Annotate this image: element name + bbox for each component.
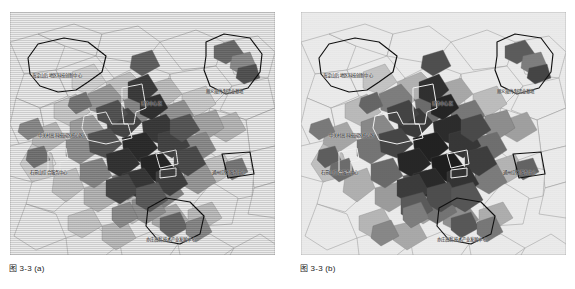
figure-page: 海淀山后地区科技创新中心 顺义现代制造业基地 奥体中心区 中关村高科技园区核心区…: [0, 0, 575, 289]
map-label-shijingshan-service: 石景山综合服务中心: [321, 171, 358, 175]
map-label-tongzhou-service: 通州综合服务中心: [503, 171, 536, 175]
figure-panel-b: 海淀山后地区科技创新中心 顺义现代制造业基地 奥体中心区 中关村高科技园区核心区…: [287, 0, 575, 289]
map-label-yizhuang-hitech: 亦庄高新技术产业发展中心: [437, 238, 487, 242]
map-label-olympic-center: 奥体中心区: [141, 102, 162, 106]
map-a[interactable]: 海淀山后地区科技创新中心 顺义现代制造业基地 奥体中心区 中关村高科技园区核心区…: [10, 12, 275, 255]
map-label-haidian-shanhou: 海淀山后地区科技创新中心: [32, 74, 82, 78]
map-label-tongzhou-service: 通州综合服务中心: [212, 171, 245, 175]
map-label-shijingshan-service: 石景山综合服务中心: [30, 171, 67, 175]
map-label-shunyi-manufacturing: 顺义现代制造业基地: [497, 90, 534, 94]
map-label-shunyi-manufacturing: 顺义现代制造业基地: [206, 90, 243, 94]
map-b[interactable]: 海淀山后地区科技创新中心 顺义现代制造业基地 奥体中心区 中关村高科技园区核心区…: [301, 12, 566, 255]
map-label-yizhuang-hitech: 亦庄高新技术产业发展中心: [146, 238, 196, 242]
figure-caption-a: 图 3-3 (a): [9, 262, 45, 273]
figure-caption-b: 图 3-3 (b): [300, 262, 336, 273]
map-label-haidian-shanhou: 海淀山后地区科技创新中心: [323, 74, 373, 78]
map-label-olympic-center: 奥体中心区: [432, 102, 453, 106]
map-label-zhongguancun-core: 中关村高科技园区核心区: [38, 134, 84, 138]
map-label-zhongguancun-core: 中关村高科技园区核心区: [329, 134, 375, 138]
figure-panel-a: 海淀山后地区科技创新中心 顺义现代制造业基地 奥体中心区 中关村高科技园区核心区…: [0, 0, 288, 289]
